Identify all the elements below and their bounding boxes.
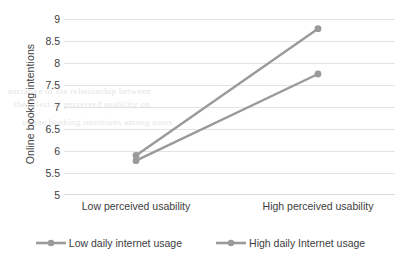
data-point-marker [315,25,322,32]
y-axis-tick-labels: 5 5.5 6 6.5 7 7.5 8 8.5 9 [18,0,60,200]
legend-item-low-daily-internet-usage[interactable]: Low daily internet usage [36,237,182,249]
legend-label: Low daily internet usage [69,237,182,249]
y-tick-label: 7.5 [45,80,60,90]
legend-label: High daily Internet usage [249,237,365,249]
series-line [136,74,318,161]
x-tick-label: Low perceived usability [82,200,191,212]
line-chart: narrative of the relationship between th… [0,0,401,260]
y-tick-label: 5 [54,190,60,200]
data-point-marker [133,152,140,159]
series-layer [64,19,395,195]
y-tick-label: 9 [54,14,60,24]
legend-marker-icon [216,237,246,249]
series-line [136,29,318,156]
x-axis-tick-labels: Low perceived usability High perceived u… [64,200,395,220]
y-tick-label: 6.5 [45,124,60,134]
y-tick-label: 7 [54,102,60,112]
y-tick-label: 5.5 [45,168,60,178]
chart-legend: Low daily internet usage High daily Inte… [0,232,401,254]
y-tick-label: 8 [54,58,60,68]
y-tick-label: 6 [54,146,60,156]
y-tick-label: 8.5 [45,36,60,46]
x-tick-label: High perceived usability [263,200,374,212]
plot-area [64,19,395,195]
legend-marker-icon [36,237,66,249]
data-point-marker [315,71,322,78]
legend-item-high-daily-internet-usage[interactable]: High daily Internet usage [216,237,365,249]
